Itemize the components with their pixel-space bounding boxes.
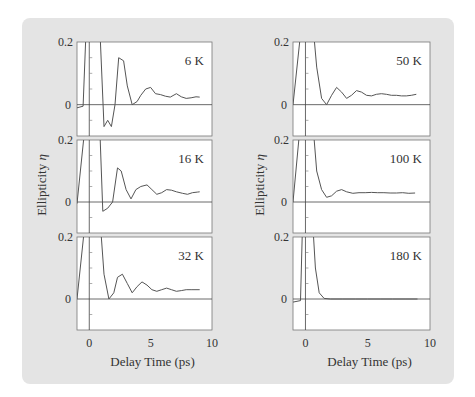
y-tick-label: 0.2 (58, 35, 73, 49)
x-tick-label: 0 (86, 336, 92, 350)
x-tick-label: 5 (148, 336, 154, 350)
temperature-label: 16 K (178, 151, 204, 166)
x-tick-label: 0 (302, 336, 308, 350)
temperature-label: 180 K (390, 248, 423, 263)
y-tick-label: 0 (281, 292, 287, 306)
y-tick-label: 0 (65, 292, 71, 306)
y-tick-label: 0 (65, 195, 71, 209)
temperature-label: 6 K (185, 53, 205, 68)
y-tick-label: 0.2 (274, 133, 289, 147)
temperature-label: 100 K (390, 151, 423, 166)
temperature-label: 32 K (178, 248, 204, 263)
y-tick-label: 0.2 (274, 35, 289, 49)
x-tick-label: 10 (424, 336, 436, 350)
y-axis-label: Ellipticity η (252, 154, 267, 216)
y-tick-label: 0 (281, 98, 287, 112)
y-tick-label: 0 (65, 98, 71, 112)
x-tick-label: 5 (365, 336, 371, 350)
temperature-label: 50 K (396, 53, 422, 68)
panel-right-top: 0.2050 K (274, 11, 430, 136)
panel-left-top: 0.206 K (58, 11, 212, 136)
figure-svg: 0.206 K0.2016 K0.2032 K0510Delay Time (p… (0, 0, 475, 397)
x-axis-label: Delay Time (ps) (110, 354, 195, 369)
x-tick-label: 10 (206, 336, 218, 350)
y-tick-label: 0.2 (58, 230, 73, 244)
x-axis-label: Delay Time (ps) (327, 354, 412, 369)
y-tick-label: 0.2 (58, 133, 73, 147)
y-tick-label: 0.2 (274, 230, 289, 244)
y-tick-label: 0 (281, 195, 287, 209)
y-axis-label: Ellipticity η (34, 154, 49, 216)
